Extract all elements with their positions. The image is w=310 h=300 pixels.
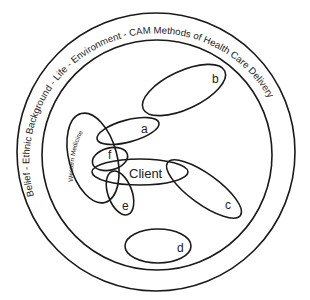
outer-circle [17, 13, 295, 291]
client-label: Client [129, 166, 163, 181]
diagram-canvas: Belief - Ethnic Background - Life - Envi… [0, 0, 310, 300]
label-d: d [177, 241, 184, 255]
western-medicine-label: Western Medicine [67, 129, 84, 182]
label-f: f [108, 148, 112, 162]
label-e: e [122, 199, 129, 213]
ellipse-a [94, 112, 162, 150]
health-care-delivery-diagram: Belief - Ethnic Background - Life - Envi… [0, 0, 310, 300]
label-a: a [141, 122, 148, 136]
label-b: b [212, 72, 219, 86]
inner-circle [42, 40, 272, 270]
label-c: c [225, 198, 231, 212]
ellipse-b [135, 54, 233, 126]
